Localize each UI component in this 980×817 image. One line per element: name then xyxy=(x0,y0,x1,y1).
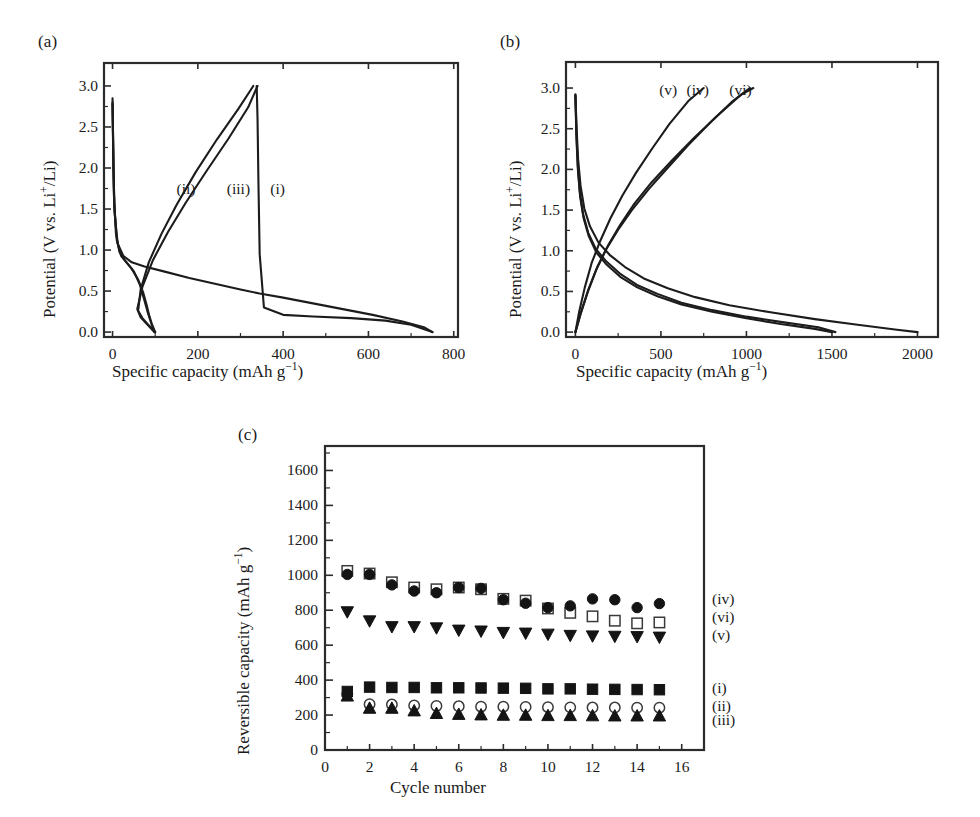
panel-c-frame xyxy=(325,446,704,750)
panel-b-ytick-label: 3.0 xyxy=(514,79,560,97)
panel-b-curve-label: (iv) xyxy=(687,81,709,99)
panel-c-xtick-label: 4 xyxy=(410,758,418,776)
panel-c-ytick-label: 1600 xyxy=(268,461,318,479)
panel-a-xtick-label: 600 xyxy=(357,345,380,363)
marker-filled-triangle-down xyxy=(564,630,576,641)
panel-a-ytick-label: 0.0 xyxy=(52,323,98,341)
panel-c-tag: (c) xyxy=(238,425,257,445)
panel-a-ytick-label: 1.5 xyxy=(52,200,98,218)
marker-filled-circle xyxy=(520,598,530,608)
panel-c-ytick-label: 1000 xyxy=(268,566,318,584)
panel-c-xtick-label: 10 xyxy=(540,758,556,776)
panel-b-ytick-label: 2.0 xyxy=(514,160,560,178)
panel-c-ytick-label: 200 xyxy=(268,706,318,724)
panel-a-curve xyxy=(113,102,156,332)
marker-filled-circle xyxy=(342,569,352,579)
panel-b-frame xyxy=(566,62,938,337)
figure-root: (a) Potential (V vs. Li+/Li) Specific ca… xyxy=(0,0,980,817)
panel-c-series-label: (vi) xyxy=(712,608,734,626)
marker-filled-triangle-down xyxy=(430,623,442,634)
panel-a-curve xyxy=(138,86,253,332)
panel-c-ytick-label: 600 xyxy=(268,636,318,654)
marker-filled-triangle-down xyxy=(653,632,665,643)
panel-a-curve-label: (ii) xyxy=(177,180,196,198)
panel-a-ytick-label: 3.0 xyxy=(52,77,98,95)
panel-b-ytick-label: 0.5 xyxy=(514,282,560,300)
panel-a-xtick-label: 400 xyxy=(272,345,295,363)
panel-c-xtick-label: 0 xyxy=(321,758,329,776)
panel-a-ytick-label: 1.0 xyxy=(52,241,98,259)
marker-filled-triangle-down xyxy=(519,628,531,639)
panel-b-ytick-label: 1.5 xyxy=(514,201,560,219)
panel-b-x-axis-title: Specific capacity (mAh g−1) xyxy=(576,360,767,382)
marker-filled-circle xyxy=(387,580,397,590)
panel-c-y-axis-title: Reversible capacity (mAh g−1) xyxy=(232,547,254,755)
marker-filled-square xyxy=(610,684,620,694)
marker-open-square xyxy=(587,611,597,621)
marker-filled-circle xyxy=(431,588,441,598)
marker-filled-triangle-down xyxy=(341,607,353,618)
panel-b-xtick-label: 1500 xyxy=(816,345,847,363)
marker-filled-triangle-down xyxy=(542,629,554,640)
panel-c-series-i xyxy=(342,682,665,697)
panel-a-ytick-label: 2.5 xyxy=(52,118,98,136)
marker-filled-square xyxy=(409,682,419,692)
marker-filled-square xyxy=(476,683,486,693)
marker-filled-circle xyxy=(565,601,575,611)
marker-filled-square xyxy=(431,683,441,693)
marker-open-square xyxy=(654,617,664,627)
panel-c-x-axis-title: Cycle number xyxy=(390,778,486,798)
panel-c-ytick-label: 1400 xyxy=(268,496,318,514)
panel-b-ytick-label: 1.0 xyxy=(514,242,560,260)
marker-filled-square xyxy=(565,684,575,694)
panel-c-xtick-label: 8 xyxy=(499,758,507,776)
marker-filled-circle xyxy=(610,595,620,605)
panel-a-ytick-label: 0.5 xyxy=(52,282,98,300)
marker-filled-square xyxy=(632,684,642,694)
panel-a-curve xyxy=(113,98,433,332)
marker-filled-circle xyxy=(498,595,508,605)
panel-c-series-label: (v) xyxy=(712,626,730,644)
panel-b-xtick-label: 500 xyxy=(649,345,672,363)
panel-c-xtick-label: 12 xyxy=(585,758,601,776)
panel-b-ytick-label: 0.0 xyxy=(514,323,560,341)
marker-filled-square xyxy=(543,684,553,694)
panel-b-curve xyxy=(575,96,832,332)
panel-c-series-iv xyxy=(342,569,665,613)
panel-c-series-label: (iv) xyxy=(712,590,734,608)
panel-c-series-label: (i) xyxy=(712,679,727,697)
marker-filled-square xyxy=(654,685,664,695)
marker-filled-square xyxy=(387,682,397,692)
panel-b-ytick-label: 2.5 xyxy=(514,120,560,138)
marker-filled-triangle-down xyxy=(631,632,643,643)
marker-filled-circle xyxy=(654,598,664,608)
marker-filled-circle xyxy=(364,569,374,579)
panel-a-x-axis-title: Specific capacity (mAh g−1) xyxy=(112,360,303,382)
panel-a: (a) Potential (V vs. Li+/Li) Specific ca… xyxy=(0,0,480,410)
panel-b-curve xyxy=(575,95,835,333)
panel-b-tag: (b) xyxy=(500,32,520,52)
panel-c-ytick-label: 1200 xyxy=(268,531,318,549)
marker-filled-triangle-down xyxy=(586,631,598,642)
marker-filled-circle xyxy=(587,594,597,604)
panel-a-curve xyxy=(113,104,155,332)
panel-a-xtick-label: 0 xyxy=(109,345,117,363)
marker-filled-square xyxy=(498,683,508,693)
panel-b-xtick-label: 2000 xyxy=(902,345,933,363)
panel-b: (b) Potential (V vs. Li+/Li) Specific ca… xyxy=(480,0,980,410)
panel-c-ytick-label: 0 xyxy=(268,741,318,759)
panel-b-curve-label: (vi) xyxy=(729,81,751,99)
marker-filled-square xyxy=(520,683,530,693)
marker-filled-circle xyxy=(454,582,464,592)
panel-b-curve-label: (v) xyxy=(659,81,677,99)
panel-c-ytick-label: 800 xyxy=(268,601,318,619)
marker-filled-triangle-down xyxy=(363,616,375,627)
panel-a-tag: (a) xyxy=(38,32,57,52)
panel-a-curve xyxy=(137,86,257,332)
panel-c: (c) Reversible capacity (mAh g−1) Cycle … xyxy=(190,415,790,817)
panel-a-curve-label: (i) xyxy=(270,180,285,198)
panel-c-ytick-label: 400 xyxy=(268,671,318,689)
marker-filled-triangle-down xyxy=(475,626,487,637)
panel-a-curve xyxy=(257,86,433,332)
marker-filled-square xyxy=(454,683,464,693)
